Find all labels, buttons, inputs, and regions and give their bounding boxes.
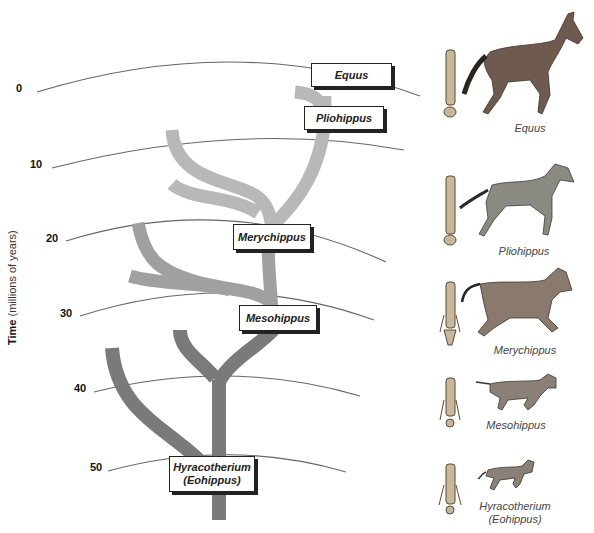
mesohippus-hoof-icon (440, 378, 460, 427)
caption-equus: Equus (490, 122, 570, 135)
genus-alt-label: (Eohippus) (183, 474, 240, 487)
horse-evolution-diagram (0, 0, 594, 533)
genus-box-pliohippus: Pliohippus (304, 106, 384, 130)
tick-10: 10 (30, 158, 42, 170)
axis-title-bold: Time (6, 320, 18, 345)
genus-box-mesohippus: Mesohippus (239, 305, 317, 331)
pliohippus-horse-icon (460, 164, 574, 236)
caption-merychippus: Merychippus (480, 344, 570, 357)
caption-text: Hyracotherium (470, 500, 560, 513)
equus-horse-icon (464, 12, 583, 114)
hyracotherium-horse-icon (478, 460, 534, 490)
genus-label: Mesohippus (246, 312, 310, 325)
genus-box-merychippus: Merychippus (233, 224, 311, 250)
caption-pliohippus: Pliohippus (484, 245, 564, 258)
axis-title-rest: (millions of years) (6, 230, 18, 319)
branch-merychippus-up (270, 120, 325, 228)
branches-recent (172, 92, 325, 228)
merychippus-hoof-icon (440, 282, 460, 345)
genus-box-equus: Equus (311, 63, 392, 87)
tick-20: 20 (46, 232, 58, 244)
caption-hyracotherium: Hyracotherium (Eohippus) (470, 500, 560, 526)
tick-40: 40 (74, 382, 86, 394)
hoof-bones (439, 50, 461, 514)
caption-text: Mesohippus (486, 419, 545, 431)
merychippus-horse-icon (462, 268, 572, 336)
arc-10 (52, 138, 404, 168)
branch-to-mesohippus (219, 330, 273, 382)
branch-left-fork (130, 276, 230, 290)
branch-mid-extinct (180, 330, 215, 378)
arc-20 (66, 220, 386, 262)
axis-title: Time (millions of years) (6, 230, 18, 345)
caption-text: Pliohippus (499, 245, 550, 257)
genus-box-hyracotherium: Hyracotherium (Eohippus) (169, 456, 255, 492)
caption-alt-text: (Eohippus) (470, 513, 560, 526)
genus-label: Merychippus (238, 231, 306, 244)
tick-30: 30 (60, 307, 72, 319)
genus-label: Hyracotherium (173, 461, 251, 474)
genus-label: Equus (335, 69, 369, 82)
genus-label: Pliohippus (316, 112, 372, 125)
hyracotherium-hoof-icon (439, 464, 461, 514)
caption-text: Equus (514, 122, 545, 134)
arc-30 (80, 293, 374, 320)
equus-hoof-icon (444, 50, 456, 117)
tick-50: 50 (90, 461, 102, 473)
caption-mesohippus: Mesohippus (476, 419, 556, 432)
caption-text: Merychippus (494, 344, 556, 356)
mesohippus-horse-icon (476, 374, 556, 410)
pliohippus-hoof-icon (444, 176, 456, 245)
tick-0: 0 (16, 82, 22, 94)
